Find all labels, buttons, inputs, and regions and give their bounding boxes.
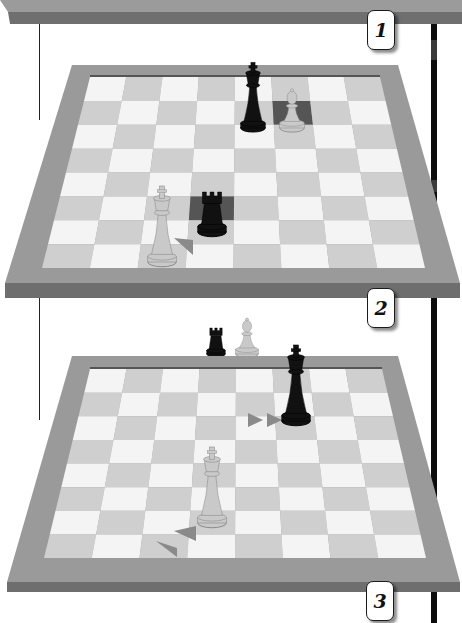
square-h5[interactable] (358, 440, 404, 464)
square-h7[interactable] (350, 393, 393, 417)
square-b7[interactable] (118, 393, 160, 417)
square-a7[interactable] (79, 393, 123, 417)
black-rook-icon (207, 328, 226, 357)
square-f1[interactable] (281, 534, 330, 558)
square-a4[interactable] (61, 464, 109, 488)
square-f5[interactable] (276, 440, 319, 464)
square-a8[interactable] (84, 369, 126, 393)
square-e3[interactable] (235, 487, 280, 511)
square-a6[interactable] (73, 416, 118, 440)
square-h3[interactable] (366, 487, 415, 511)
square-b6[interactable] (113, 416, 157, 440)
square-c6[interactable] (154, 416, 196, 440)
square-g5[interactable] (317, 440, 362, 464)
square-g4[interactable] (320, 464, 366, 488)
square-e8[interactable] (236, 369, 274, 393)
square-e1[interactable] (235, 534, 283, 558)
square-d8[interactable] (198, 369, 236, 393)
square-f2[interactable] (280, 511, 328, 535)
square-b2[interactable] (96, 511, 145, 535)
square-d7[interactable] (196, 393, 235, 417)
square-g1[interactable] (328, 534, 378, 558)
square-g7[interactable] (312, 393, 354, 417)
square-f4[interactable] (278, 464, 323, 488)
square-h6[interactable] (354, 416, 399, 440)
square-h2[interactable] (370, 511, 420, 535)
white-pawn-icon (236, 318, 259, 358)
square-e7[interactable] (236, 393, 275, 417)
step-label-3: 3 (366, 581, 394, 621)
square-h1[interactable] (374, 534, 426, 558)
square-c4[interactable] (148, 464, 193, 488)
chessboard-squares (44, 369, 426, 558)
square-b8[interactable] (122, 369, 163, 393)
square-c3[interactable] (145, 487, 191, 511)
square-a1[interactable] (44, 534, 96, 558)
square-a5[interactable] (67, 440, 113, 464)
square-g2[interactable] (325, 511, 374, 535)
square-e2[interactable] (235, 511, 281, 535)
square-f3[interactable] (279, 487, 325, 511)
square-a2[interactable] (50, 511, 101, 535)
square-g3[interactable] (322, 487, 370, 511)
square-e4[interactable] (235, 464, 279, 488)
square-h8[interactable] (346, 369, 388, 393)
square-b1[interactable] (92, 534, 143, 558)
square-c7[interactable] (157, 393, 198, 417)
square-c5[interactable] (151, 440, 195, 464)
step-number: 1 (374, 19, 387, 41)
square-b4[interactable] (105, 464, 151, 488)
step-number: 3 (373, 590, 386, 612)
square-b5[interactable] (109, 440, 154, 464)
step-label-2: 2 (367, 288, 395, 328)
step-label-1: 1 (367, 10, 395, 50)
square-d6[interactable] (195, 416, 236, 440)
square-h4[interactable] (362, 464, 410, 488)
square-e5[interactable] (236, 440, 278, 464)
square-g8[interactable] (309, 369, 350, 393)
square-c8[interactable] (160, 369, 199, 393)
square-g6[interactable] (314, 416, 357, 440)
step-number: 2 (374, 297, 387, 319)
square-b3[interactable] (100, 487, 148, 511)
square-a3[interactable] (56, 487, 105, 511)
